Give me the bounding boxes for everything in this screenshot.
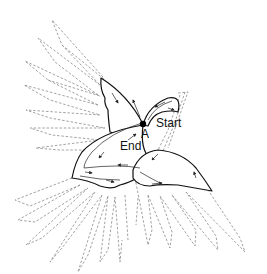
right-tail-feathers — [125, 178, 245, 252]
point-a-label: A — [141, 127, 149, 141]
upper-wing-feathers — [24, 20, 105, 150]
start-label: Start — [156, 116, 182, 130]
end-label: End — [120, 139, 141, 153]
lower-tail-feathers — [15, 178, 122, 272]
right-wing-outline — [133, 150, 212, 191]
bird-path-diagram: A Start End — [0, 0, 267, 274]
